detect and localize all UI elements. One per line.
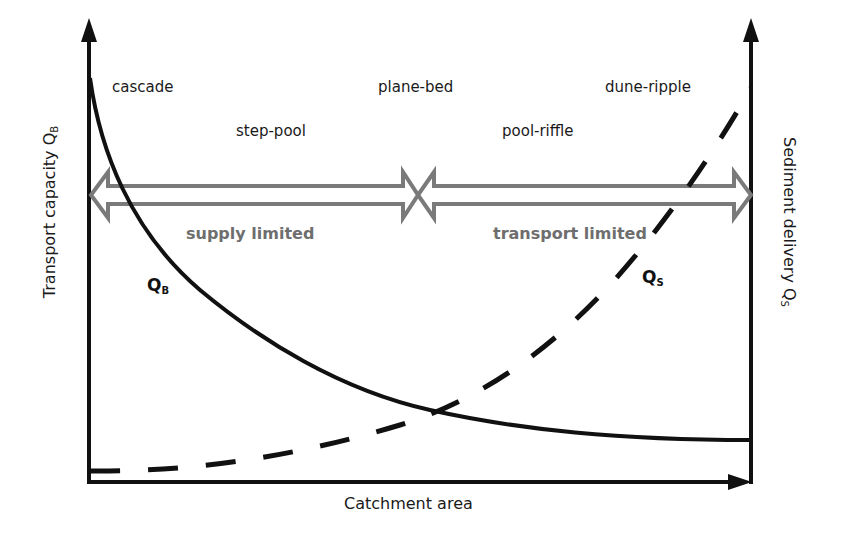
left-y-axis-label-sub: B — [49, 126, 60, 133]
supply-limited-arrow — [91, 172, 418, 218]
right-y-axis-label-sub: S — [779, 301, 790, 307]
regime-label-dune-ripple: dune-ripple — [605, 78, 691, 96]
x-axis-arrowhead-icon — [728, 474, 752, 490]
transport-limited-arrow — [418, 172, 751, 218]
right-y-axis — [743, 18, 759, 484]
right-y-axis-label-main: Sediment delivery Q — [780, 137, 799, 300]
left-axis-arrowhead-icon — [81, 18, 97, 42]
left-y-axis-label: Transport capacity QB — [40, 126, 60, 298]
x-axis — [87, 474, 752, 490]
curve-label-qs-sub: S — [656, 277, 663, 288]
curve-label-qb-main: Q — [147, 275, 161, 295]
right-y-axis-label: Sediment delivery QS — [779, 137, 799, 307]
regime-label-step-pool: step-pool — [236, 122, 306, 140]
regime-label-plane-bed: plane-bed — [378, 78, 453, 96]
zone-label-transport-limited: transport limited — [493, 224, 647, 243]
curve-label-qb: QB — [147, 275, 169, 296]
x-axis-label: Catchment area — [344, 494, 473, 513]
curve-label-qb-sub: B — [161, 285, 169, 296]
regime-label-pool-riffle: pool-riffle — [502, 122, 574, 140]
right-axis-arrowhead-icon — [743, 18, 759, 42]
zone-label-supply-limited: supply limited — [186, 224, 314, 243]
regime-label-cascade: cascade — [112, 78, 173, 96]
curve-label-qs: QS — [642, 267, 664, 288]
transport-capacity-curve — [90, 78, 751, 440]
left-y-axis — [81, 18, 97, 482]
curve-label-qs-main: Q — [642, 267, 656, 287]
left-y-axis-label-main: Transport capacity Q — [40, 133, 59, 298]
